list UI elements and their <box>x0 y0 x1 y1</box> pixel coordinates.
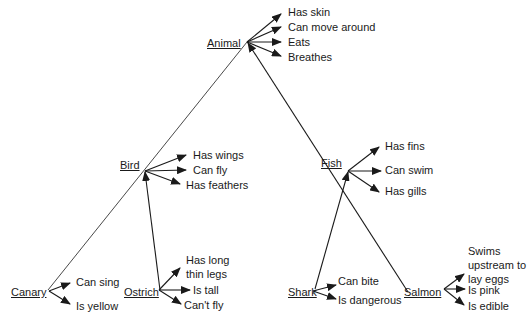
edge-shark-fish <box>315 172 348 289</box>
prop-arrow <box>348 171 379 192</box>
prop-arrow <box>247 14 281 42</box>
property-label: Has wings <box>193 149 244 162</box>
property-label: Can sing <box>76 276 119 289</box>
property-label: Is yellow <box>76 300 118 313</box>
property-label: Eats <box>288 36 310 49</box>
node-shark: Shark <box>288 286 317 299</box>
property-label: Can't fly <box>184 299 223 312</box>
prop-arrow <box>444 274 464 289</box>
prop-arrow <box>145 171 180 184</box>
prop-arrow <box>247 27 281 42</box>
node-salmon: Salmon <box>404 286 441 299</box>
prop-arrow <box>159 290 181 304</box>
property-label: Is pink <box>468 284 500 297</box>
property-label: Is tall <box>193 284 219 297</box>
property-label: Has gills <box>385 185 427 198</box>
edge-ostrich-bird <box>145 172 160 290</box>
prop-arrow <box>159 268 180 290</box>
prop-arrow <box>348 147 379 171</box>
property-label: Swims upstream to lay eggs <box>468 244 526 286</box>
prop-arrow <box>444 289 464 305</box>
property-label: Can bite <box>338 275 379 288</box>
property-label: Is dangerous <box>338 294 402 307</box>
prop-arrow <box>49 291 70 304</box>
property-label: Has long thin legs <box>186 253 229 281</box>
property-label: Can fly <box>193 164 227 177</box>
node-fish: Fish <box>321 157 342 170</box>
prop-arrow <box>145 170 186 171</box>
property-label: Has feathers <box>186 179 248 192</box>
property-label: Has fins <box>385 140 425 153</box>
property-label: Has skin <box>288 6 330 19</box>
property-label: Is edible <box>468 300 509 313</box>
prop-arrow <box>145 155 186 171</box>
property-label: Can swim <box>385 164 433 177</box>
node-bird: Bird <box>120 159 140 172</box>
property-label: Breathes <box>288 51 332 64</box>
node-animal: Animal <box>207 37 241 50</box>
property-label: Can move around <box>288 21 375 34</box>
node-ostrich: Ostrich <box>124 286 159 299</box>
node-canary: Canary <box>11 286 46 299</box>
semantic-network-diagram <box>0 0 528 319</box>
